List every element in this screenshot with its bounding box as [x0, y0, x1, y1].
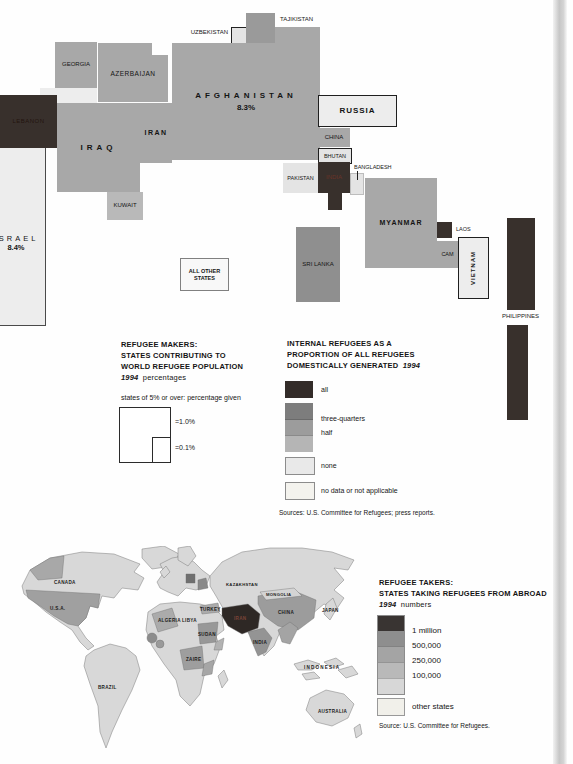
map-label-iran: IRAN	[234, 616, 247, 621]
country-germany	[186, 574, 195, 583]
takers-ramp-100k	[378, 662, 404, 678]
block-sri-lanka: SRI LANKA	[296, 227, 340, 302]
country-ivory-coast	[156, 640, 164, 648]
bangladesh-pointer-line	[357, 171, 358, 180]
map-label-usa: U.S.A.	[50, 606, 65, 611]
internal-sources: Sources: U.S. Committee for Refugees; pr…	[279, 509, 435, 516]
swatch-quarter	[285, 435, 313, 452]
block-iraq: IRAQ	[57, 103, 140, 192]
map-label-japan: JAPAN	[322, 608, 339, 613]
takers-ramp-low	[378, 678, 404, 694]
map-label-australia: AUSTRALIA	[318, 709, 348, 714]
block-myanmar: MYANMAR	[365, 178, 437, 268]
atlas-page: GEORGIA AZERBAIJAN UZBEKISTAN TAJIKISTAN…	[0, 0, 573, 764]
swatch-half-label: half	[321, 429, 332, 436]
block-afghanistan-tab	[275, 27, 320, 43]
makers-note: states of 5% or over: percentage given	[121, 394, 241, 401]
internal-title-1: INTERNAL REFUGEES AS A	[287, 338, 420, 349]
takers-label-1m: 1 million	[412, 626, 441, 635]
block-laos-label: LAOS	[456, 226, 471, 232]
country-canada-west	[30, 556, 64, 580]
block-uzbekistan-label: UZBEKISTAN	[184, 29, 228, 35]
takers-ramp-250k	[378, 646, 404, 662]
takers-ramp	[377, 615, 405, 695]
takers-other-label: other states	[412, 702, 454, 711]
makers-title-2: STATES CONTRIBUTING TO	[121, 350, 243, 361]
block-lebanon-label: LEBANON	[12, 118, 44, 125]
block-philippines-label: PHILIPPINES	[502, 313, 539, 319]
landmass-new-zealand	[354, 724, 362, 738]
makers-square-small-label: =0.1%	[175, 444, 195, 451]
makers-square-big-label: =1.0%	[175, 418, 195, 425]
swatch-all-label: all	[321, 386, 328, 393]
block-philippines-upper	[507, 218, 535, 310]
takers-other-swatch	[377, 698, 405, 716]
takers-label-250k: 250,000	[412, 656, 441, 665]
landmass-south-america	[84, 644, 140, 748]
landmass-new-guinea	[338, 666, 358, 678]
makers-title-4: 1994 percentages	[121, 372, 243, 383]
takers-ramp-500k	[378, 631, 404, 646]
country-guinea	[147, 633, 157, 643]
block-india-label: INDIA	[326, 174, 342, 181]
takers-source: Source: U.S. Committee for Refugees.	[379, 722, 490, 729]
map-label-zaire: ZAIRE	[186, 657, 201, 662]
block-tajikistan	[246, 13, 275, 43]
takers-title-3: 1994 numbers	[379, 599, 547, 610]
internal-title-2: PROPORTION OF ALL REFUGEES	[287, 349, 420, 360]
legend-internal-refugees: INTERNAL REFUGEES AS A PROPORTION OF ALL…	[287, 338, 420, 371]
takers-ramp-1m	[378, 616, 404, 631]
makers-title-1: REFUGEE MAKERS:	[121, 339, 243, 350]
block-laos	[437, 222, 452, 238]
block-china-label: CHINA	[325, 134, 344, 141]
block-afghanistan-label: AFGHANISTAN	[195, 91, 297, 101]
block-russia: RUSSIA	[318, 95, 397, 127]
map-label-china: CHINA	[278, 610, 294, 615]
map-label-brazil: BRAZIL	[98, 685, 117, 690]
swatch-no-data-label: no data or not applicable	[321, 487, 398, 494]
block-cambodia: CAM	[437, 241, 458, 268]
map-label-turkey: TURKEY	[200, 607, 221, 612]
swatch-none	[285, 457, 315, 475]
block-cambodia-label: CAM	[441, 251, 453, 258]
page-scan-edge	[553, 0, 567, 764]
map-label-sudan: SUDAN	[198, 632, 216, 637]
makers-square-small	[152, 437, 171, 463]
block-india: INDIA	[318, 162, 350, 193]
takers-label-100k: 100,000	[412, 671, 441, 680]
map-label-canada: CANADA	[54, 580, 76, 585]
block-lebanon: LEBANON	[0, 95, 57, 148]
takers-label-500k: 500,000	[412, 641, 441, 650]
legend-refugee-takers: REFUGEE TAKERS: STATES TAKING REFUGEES F…	[379, 577, 547, 610]
internal-title-3: DOMESTICALLY GENERATED 1994	[287, 360, 420, 371]
block-georgia: GEORGIA	[55, 42, 97, 88]
block-iraq-label: IRAQ	[81, 143, 117, 153]
block-bhutan-label: BHUTAN	[324, 153, 346, 160]
block-iran: IRAN	[140, 103, 172, 163]
map-label-algeria: ALGERIA	[158, 618, 181, 623]
block-kuwait: KUWAIT	[107, 192, 143, 220]
block-pakistan: PAKISTAN	[283, 163, 318, 193]
map-label-indonesia: INDONESIA	[304, 665, 340, 670]
block-azerbaijan-label: AZERBAIJAN	[98, 46, 168, 102]
block-bangladesh-label: BANGLADESH	[354, 164, 392, 170]
block-georgia-label: GEORGIA	[62, 61, 90, 68]
country-balkans	[198, 578, 208, 590]
landmass-indonesia-3	[302, 672, 320, 680]
swatch-no-data	[285, 482, 315, 500]
swatch-all	[285, 381, 313, 398]
all-other-states-box: ALL OTHER STATES	[180, 258, 229, 291]
block-india-tab	[328, 193, 342, 210]
makers-title-3: WORLD REFUGEE POPULATION	[121, 361, 243, 372]
block-russia-label: RUSSIA	[339, 106, 375, 116]
map-label-libya: LIBYA	[182, 618, 197, 623]
block-philippines-lower	[507, 325, 528, 420]
map-label-india: INDIA	[253, 640, 267, 645]
map-label-mongolia: MONGOLIA	[266, 592, 291, 597]
swatch-three-quarters-label: three-quarters	[321, 415, 365, 422]
swatch-three-quarters	[285, 403, 313, 419]
block-china: CHINA	[318, 128, 350, 147]
landmass-australia	[306, 690, 354, 726]
block-sri-lanka-label: SRI LANKA	[302, 261, 333, 268]
block-vietnam-label: VIETNAM	[470, 251, 477, 285]
